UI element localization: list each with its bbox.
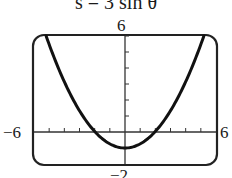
ymin-label: −2	[110, 167, 128, 178]
xmax-label: 6	[220, 124, 229, 141]
graph-window	[0, 0, 232, 178]
xmin-label: −6	[3, 124, 21, 141]
axes	[34, 36, 216, 164]
ymax-label: 6	[117, 17, 126, 34]
